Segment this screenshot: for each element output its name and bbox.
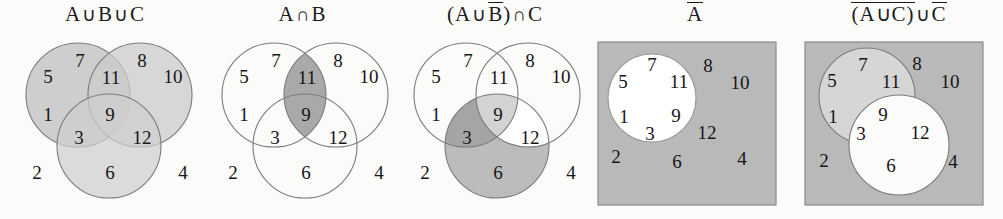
region-label-a-intersect-b: 11	[298, 68, 316, 87]
region-label-b-only: 10	[164, 67, 183, 86]
region-label-c-only: 6	[493, 163, 503, 182]
region-label-outside-a-2: 2	[611, 147, 621, 166]
region-label-b-only-upper: 8	[137, 51, 147, 70]
region-label-a-only-lower: 1	[43, 105, 53, 124]
region-label-outside-right: 4	[178, 163, 188, 182]
region-label-a-only-7: 7	[858, 55, 868, 74]
region-label-inside-a-1: 1	[619, 107, 629, 126]
region-label-outside-left: 2	[420, 163, 430, 182]
region-label-a-only-11: 11	[882, 72, 900, 91]
region-label-b-only: 10	[552, 67, 571, 86]
circle-c	[849, 95, 949, 195]
region-label-outside-a-6: 6	[672, 152, 682, 171]
region-label-outside-a-10: 10	[731, 73, 750, 92]
region-label-a-only-upper: 7	[271, 51, 281, 70]
region-label-a-intersect-c: 3	[270, 128, 280, 147]
region-label-c-only: 6	[301, 163, 311, 182]
region-label-outside-a-12: 12	[698, 123, 717, 142]
panel-not-a: A 7 5 11 1 9 3 8 10 12 2 6 4	[595, 0, 795, 219]
region-label-inside-a-3: 3	[645, 124, 655, 143]
region-label-a-intersect-c: 3	[462, 128, 472, 147]
region-label-a-intersect-b: 11	[490, 68, 508, 87]
region-label-outside-a-8: 8	[703, 56, 713, 75]
region-label-a-only: 5	[239, 67, 249, 86]
region-label-a-intersect-c-9: 9	[878, 105, 888, 124]
region-label-a-only: 5	[431, 67, 441, 86]
region-label-inside-a-9: 9	[671, 106, 681, 125]
region-label-inside-a-11: 11	[670, 72, 688, 91]
region-label-a-intersect-b-intersect-c: 9	[105, 105, 115, 124]
region-label-b-intersect-c: 12	[133, 128, 152, 147]
region-label-a-intersect-c-3: 3	[856, 124, 866, 143]
region-label-outside-right: 4	[566, 163, 576, 182]
region-label-a-only-lower: 1	[431, 105, 441, 124]
venn-svg	[795, 0, 1003, 219]
region-label-b-only-upper: 8	[525, 51, 535, 70]
venn-diagram-figure: A∪B∪C 5 7 11 8 10 1 9 3 12 6 2 4 A∩B	[0, 0, 1003, 219]
region-label-outside-4: 4	[948, 152, 958, 171]
region-label-outside-2: 2	[819, 151, 829, 170]
region-label-b-only-upper: 8	[333, 51, 343, 70]
region-label-outside-8: 8	[912, 54, 922, 73]
region-label-b-only: 10	[360, 67, 379, 86]
region-label-c-only-6: 6	[886, 156, 896, 175]
region-label-c-only: 6	[105, 163, 115, 182]
region-label-a-intersect-b-intersect-c: 9	[493, 105, 503, 124]
region-label-b-intersect-c: 12	[329, 128, 348, 147]
region-label-a-only-upper: 7	[75, 51, 85, 70]
region-label-b-intersect-c: 12	[521, 128, 540, 147]
region-label-outside-left: 2	[32, 163, 42, 182]
region-label-inside-a-7: 7	[647, 55, 657, 74]
region-label-c-only-12: 12	[911, 123, 930, 142]
region-label-a-only: 5	[43, 67, 53, 86]
region-label-a-intersect-b: 11	[102, 68, 120, 87]
panel-a-union-b-union-c: A∪B∪C 5 7 11 8 10 1 9 3 12 6 2 4	[0, 0, 210, 219]
region-label-inside-a-5: 5	[618, 72, 628, 91]
region-label-a-intersect-b-intersect-c: 9	[301, 105, 311, 124]
region-label-outside-right: 4	[374, 163, 384, 182]
region-label-a-only-upper: 7	[463, 51, 473, 70]
panel-a-union-not-b-intersect-c: (A∪B)∩C	[395, 0, 595, 219]
region-label-a-only-1: 1	[828, 107, 838, 126]
region-label-a-only-5: 5	[827, 71, 837, 90]
region-label-outside-10: 10	[941, 72, 960, 91]
panel-not-a-union-c-union-not-c: (A∪C)∪C 7 5 11 1 9 3 12 6 8 10 2 4	[795, 0, 1003, 219]
region-label-outside-a-4: 4	[737, 149, 747, 168]
region-label-outside-left: 2	[228, 163, 238, 182]
region-label-a-intersect-c: 3	[74, 128, 84, 147]
region-label-a-only-lower: 1	[239, 105, 249, 124]
panel-a-intersect-b: A∩B 5 7 11 8 10 1 9 3 12 6 2 4	[210, 0, 395, 219]
